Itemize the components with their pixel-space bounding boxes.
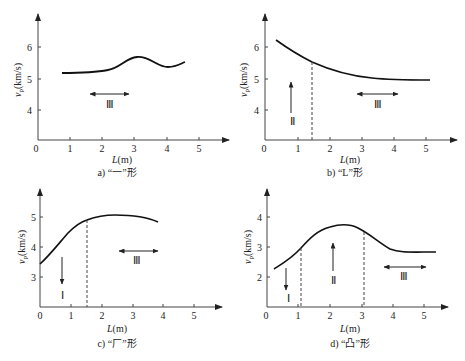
region-label-iii: Ⅲ — [133, 254, 141, 266]
x-tick-label: 1 — [296, 310, 301, 321]
x-tick-label: 5 — [192, 310, 197, 321]
chart-a: 0 1 2 3 4 5 6 5 4 L(m) vp(km/s) Ⅲ a) “一”… — [12, 14, 229, 179]
y-tick-label: 6 — [254, 42, 259, 53]
caption-a: a) “一”形 — [97, 167, 136, 179]
x-tick-label: 5 — [422, 310, 427, 321]
x-axis-label: L(m) — [111, 154, 132, 166]
region-label-iii: Ⅲ — [106, 98, 114, 110]
y-tick-label: 5 — [31, 212, 36, 223]
region-label-ii: Ⅱ — [331, 274, 336, 286]
x-tick-label: 4 — [392, 143, 397, 154]
x-tick-label: 1 — [68, 143, 73, 154]
caption-b: b) “L”形 — [327, 167, 363, 179]
y-tick-label: 4 — [254, 105, 259, 116]
y-axis-label: vp(km/s) — [238, 63, 251, 97]
data-curve — [62, 57, 185, 73]
x-tick-label: 5 — [197, 143, 202, 154]
chart-c: 0 1 2 3 4 5 5 4 3 L(m) vp(km/s) Ⅰ Ⅲ c) “… — [16, 189, 222, 350]
x-tick-label: 4 — [165, 143, 170, 154]
x-tick-label: 0 — [264, 310, 269, 321]
x-tick-label: 5 — [424, 143, 429, 154]
y-tick-label: 3 — [257, 242, 262, 253]
x-tick-label: 3 — [360, 143, 365, 154]
x-tick-label: 2 — [100, 143, 105, 154]
x-tick-label: 0 — [262, 143, 267, 154]
region-label-iii: Ⅲ — [374, 98, 382, 110]
x-tick-label: 2 — [328, 143, 333, 154]
x-tick-label: 3 — [132, 143, 137, 154]
y-axis-label: vp(km/s) — [12, 63, 25, 97]
chart-d: 0 1 2 3 4 5 4 3 2 L(m) vp(km/s) Ⅰ Ⅱ Ⅲ d)… — [242, 189, 448, 350]
x-axis-label: L(m) — [106, 323, 127, 335]
data-curve — [274, 225, 436, 269]
x-tick-label: 4 — [391, 310, 396, 321]
x-tick-label: 1 — [296, 143, 301, 154]
data-curve — [276, 40, 430, 80]
y-tick-label: 5 — [254, 74, 259, 85]
y-tick-label: 4 — [27, 105, 32, 116]
y-tick-label: 3 — [31, 272, 36, 283]
x-tick-label: 0 — [38, 310, 43, 321]
x-tick-label: 1 — [69, 310, 74, 321]
chart-b: 0 1 2 3 4 5 6 5 4 L(m) vp(km/s) Ⅱ Ⅲ b) “… — [238, 14, 457, 179]
y-tick-label: 4 — [31, 242, 36, 253]
y-tick-label: 2 — [257, 272, 262, 283]
y-tick-label: 5 — [27, 74, 32, 85]
y-tick-label: 4 — [257, 212, 262, 223]
y-axis-label: vp(km/s) — [242, 230, 255, 264]
x-tick-label: 4 — [161, 310, 166, 321]
y-tick-label: 6 — [27, 42, 32, 53]
x-tick-label: 3 — [131, 310, 136, 321]
caption-d: d) “凸”形 — [330, 338, 370, 350]
x-tick-label: 2 — [100, 310, 105, 321]
region-label-i: Ⅰ — [287, 292, 290, 304]
x-tick-label: 0 — [34, 143, 39, 154]
region-label-i: Ⅰ — [61, 289, 64, 301]
figure: 0 1 2 3 4 5 6 5 4 L(m) vp(km/s) Ⅲ a) “一”… — [0, 0, 465, 361]
y-axis-label: vp(km/s) — [16, 230, 29, 264]
region-label-ii: Ⅱ — [290, 115, 295, 127]
region-label-iii: Ⅲ — [400, 270, 408, 282]
x-axis-label: L(m) — [339, 323, 360, 335]
caption-c: c) “厂”形 — [97, 338, 136, 350]
x-tick-label: 3 — [360, 310, 365, 321]
x-tick-label: 2 — [328, 310, 333, 321]
x-axis-label: L(m) — [339, 154, 360, 166]
